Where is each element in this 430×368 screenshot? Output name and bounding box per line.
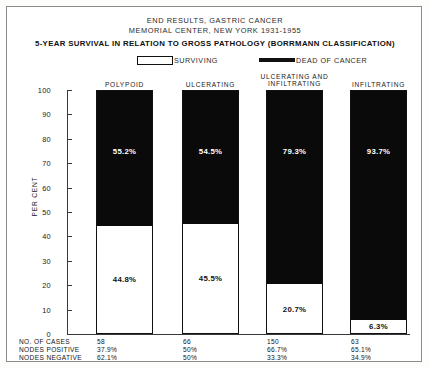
footer-row: NODES NEGATIVE62.1%50%33.3%34.9% <box>7 354 423 362</box>
bar-group[interactable]: 54.5%45.5% <box>182 90 239 334</box>
bar-label-dead-of-cancer: 93.7% <box>351 147 406 156</box>
footer-row-label: NODES POSITIVE <box>19 346 80 353</box>
footer-row: NO. OF CASES586615063 <box>7 338 423 346</box>
stacked-bar[interactable]: 79.3%20.7% <box>266 90 323 334</box>
footer-cell: 37.9% <box>97 346 154 353</box>
y-tick-label: 40 <box>25 232 51 241</box>
y-tick-label: 80 <box>25 135 51 144</box>
bar-label-surviving: 6.3% <box>351 322 406 331</box>
screenshot-canvas: END RESULTS, GASTRIC CANCER MEMORIAL CEN… <box>0 0 430 368</box>
category-header-1: ULCERATING <box>165 81 257 88</box>
category-header-3: INFILTRATING <box>333 81 425 88</box>
y-tick-label: 60 <box>25 184 51 193</box>
bar-label-dead-of-cancer: 55.2% <box>97 147 152 156</box>
bar-label-surviving: 20.7% <box>267 305 322 314</box>
y-tick-mark <box>68 188 72 189</box>
y-tick-mark <box>68 139 72 140</box>
footer-cell: 34.9% <box>351 354 408 361</box>
y-tick-mark <box>68 212 72 213</box>
category-header-2: ULCERATING AND INFILTRATING <box>249 73 341 88</box>
bar-segment-dead-of-cancer[interactable] <box>267 91 322 284</box>
footer-row-label: NO. OF CASES <box>19 338 70 345</box>
y-tick-mark <box>68 236 72 237</box>
stacked-bar[interactable]: 93.7%6.3% <box>350 90 407 334</box>
footer-table: NO. OF CASES586615063NODES POSITIVE37.9%… <box>7 338 423 366</box>
y-axis-title: PER CENT <box>31 167 38 227</box>
category-header-0: POLYPOID <box>79 81 171 88</box>
y-tick-mark <box>68 90 72 91</box>
y-tick-label: 70 <box>25 159 51 168</box>
y-tick-label: 20 <box>25 281 51 290</box>
footer-row: NODES POSITIVE37.9%50%66.7%65.1% <box>7 346 423 354</box>
y-tick-label: 50 <box>25 208 51 217</box>
bar-group[interactable]: 79.3%20.7% <box>266 90 323 334</box>
bar-group[interactable]: 93.7%6.3% <box>350 90 407 334</box>
stacked-bar[interactable]: 55.2%44.8% <box>96 90 153 334</box>
bar-label-surviving: 45.5% <box>183 274 238 283</box>
bar-segment-dead-of-cancer[interactable] <box>183 91 238 224</box>
y-tick-mark <box>68 285 72 286</box>
y-tick-mark <box>68 114 72 115</box>
bar-label-surviving: 44.8% <box>97 275 152 284</box>
chart-frame: END RESULTS, GASTRIC CANCER MEMORIAL CEN… <box>6 6 422 362</box>
y-tick-label: 90 <box>25 110 51 119</box>
y-tick-label: 10 <box>25 306 51 315</box>
bar-label-dead-of-cancer: 79.3% <box>267 147 322 156</box>
y-tick-mark <box>68 163 72 164</box>
y-tick-mark <box>68 310 72 311</box>
footer-cell: 63 <box>351 338 408 345</box>
bar-segment-dead-of-cancer[interactable] <box>97 91 152 226</box>
footer-cell: 33.3% <box>267 354 324 361</box>
y-tick-mark <box>68 261 72 262</box>
footer-cell: 58 <box>97 338 154 345</box>
y-tick-mark <box>68 334 72 335</box>
x-axis-line <box>67 334 410 335</box>
y-tick-label: 100 <box>25 86 51 95</box>
footer-cell: 50% <box>183 354 240 361</box>
footer-cell: 150 <box>267 338 324 345</box>
footer-cell: 66.7% <box>267 346 324 353</box>
plot-area: PER CENT 0102030405060708090100 55.2%44.… <box>7 7 423 363</box>
bar-group[interactable]: 55.2%44.8% <box>96 90 153 334</box>
footer-cell: 50% <box>183 346 240 353</box>
y-tick-label: 30 <box>25 257 51 266</box>
bar-label-dead-of-cancer: 54.5% <box>183 147 238 156</box>
bar-segment-dead-of-cancer[interactable] <box>351 91 406 320</box>
stacked-bar[interactable]: 54.5%45.5% <box>182 90 239 334</box>
footer-cell: 62.1% <box>97 354 154 361</box>
footer-row-label: NODES NEGATIVE <box>19 354 82 361</box>
footer-cell: 65.1% <box>351 346 408 353</box>
footer-cell: 66 <box>183 338 240 345</box>
